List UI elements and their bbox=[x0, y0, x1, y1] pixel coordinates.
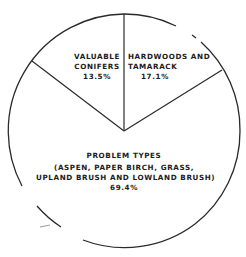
conifers-pct: 13.5% bbox=[70, 72, 124, 82]
problem-line3: UPLAND BRUSH AND LOWLAND BRUSH) bbox=[36, 173, 212, 183]
pie-chart bbox=[0, 0, 246, 257]
conifers-line2: CONIFERS bbox=[70, 62, 124, 72]
slice-label-problem-types: PROBLEM TYPES (ASPEN, PAPER BIRCH, GRASS… bbox=[36, 151, 212, 193]
slice-label-hardwoods-tamarack: HARDWOODS AND TAMARACK 17.1% bbox=[128, 52, 204, 82]
problem-line1: PROBLEM TYPES bbox=[36, 151, 212, 161]
scan-artifact bbox=[40, 225, 50, 227]
problem-pct: 69.4% bbox=[36, 183, 212, 193]
problem-line2: (ASPEN, PAPER BIRCH, GRASS, bbox=[36, 163, 212, 173]
hardwoods-pct: 17.1% bbox=[128, 72, 204, 82]
hardwoods-line2: TAMARACK bbox=[128, 62, 204, 72]
slice-label-valuable-conifers: VALUABLE CONIFERS 13.5% bbox=[70, 52, 124, 82]
hardwoods-line1: HARDWOODS AND bbox=[128, 52, 204, 62]
conifers-line1: VALUABLE bbox=[70, 52, 124, 62]
